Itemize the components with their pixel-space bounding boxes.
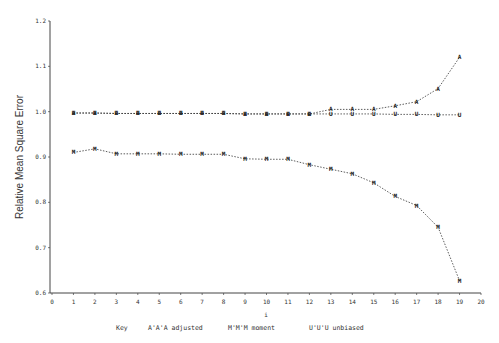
data-point-unbiased: U	[222, 109, 226, 116]
data-point-moment: M	[372, 179, 376, 186]
data-point-unbiased: U	[415, 110, 419, 117]
legend-item-adjusted: A'A'A adjusted	[148, 324, 203, 332]
x-tick-label: 14	[349, 298, 357, 305]
y-tick-label: 0.9	[35, 153, 46, 160]
data-point-moment: M	[436, 223, 440, 230]
data-point-unbiased: U	[350, 110, 354, 117]
data-point-unbiased: U	[115, 109, 119, 116]
legend-key-label: Key	[116, 324, 128, 332]
data-point-moment: M	[415, 202, 419, 209]
data-point-moment: M	[72, 148, 76, 155]
series-group: AAAAAAAAAAAAAAAAAAAMMMMMMMMMMMMMMMMMMMUU…	[72, 53, 462, 283]
x-tick-label: 13	[327, 298, 335, 305]
data-point-unbiased: U	[372, 110, 376, 117]
x-tick-label: 4	[136, 298, 140, 305]
data-point-unbiased: U	[393, 110, 397, 117]
data-point-unbiased: U	[200, 109, 204, 116]
data-point-moment: M	[350, 170, 354, 177]
y-tick-label: 1.2	[35, 17, 46, 24]
data-point-unbiased: U	[72, 109, 76, 116]
x-tick-label: 19	[456, 298, 464, 305]
data-point-adjusted: A	[415, 98, 419, 105]
y-tick-label: 1.1	[35, 62, 46, 69]
data-point-moment: M	[136, 150, 140, 157]
legend-item-moment: M'M'M moment	[228, 324, 275, 332]
x-tick-label: 2	[93, 298, 97, 305]
data-point-moment: M	[286, 155, 290, 162]
x-tick-label: 15	[370, 298, 378, 305]
y-tick-label: 0.7	[35, 244, 46, 251]
data-point-unbiased: U	[265, 110, 269, 117]
x-tick-label: 11	[284, 298, 292, 305]
data-point-unbiased: U	[286, 110, 290, 117]
data-point-moment: M	[157, 150, 161, 157]
x-tick-label: 3	[115, 298, 119, 305]
x-tick-label: 17	[413, 298, 421, 305]
data-point-moment: M	[222, 150, 226, 157]
x-tick-label: 16	[392, 298, 400, 305]
data-point-unbiased: U	[243, 110, 247, 117]
y-tick-label: 0.6	[35, 289, 46, 296]
data-point-moment: M	[393, 192, 397, 199]
data-point-unbiased: U	[136, 109, 140, 116]
series-line-moment	[73, 149, 459, 281]
data-point-unbiased: U	[93, 109, 97, 116]
x-tick-label: 10	[263, 298, 271, 305]
x-axis-label: i	[264, 311, 268, 318]
data-point-unbiased: U	[308, 110, 312, 117]
data-point-moment: M	[179, 150, 183, 157]
x-tick-label: 1	[72, 298, 76, 305]
data-point-moment: M	[458, 277, 462, 284]
data-point-moment: M	[243, 155, 247, 162]
x-tick-label: 7	[200, 298, 204, 305]
x-tick-label: 6	[179, 298, 183, 305]
legend: KeyA'A'A adjustedM'M'M momentU'U'U unbia…	[116, 324, 364, 332]
y-axis-label: Relative Mean Square Error	[14, 94, 25, 219]
data-point-moment: M	[93, 145, 97, 152]
x-tick-label: 5	[157, 298, 161, 305]
x-tick-label: 0	[50, 298, 54, 305]
data-point-moment: M	[265, 155, 269, 162]
data-point-unbiased: U	[436, 111, 440, 118]
data-point-unbiased: U	[157, 109, 161, 116]
data-point-adjusted: A	[458, 53, 462, 60]
data-point-adjusted: A	[436, 85, 440, 92]
legend-item-unbiased: U'U'U unbiased	[309, 324, 364, 332]
data-point-adjusted: A	[393, 102, 397, 109]
data-point-unbiased: U	[179, 109, 183, 116]
y-tick-label: 0.8	[35, 198, 46, 205]
series-line-adjusted	[73, 57, 459, 114]
chart: 012345678910111213141516171819200.60.70.…	[0, 0, 499, 343]
data-point-moment: M	[308, 161, 312, 168]
x-tick-label: 12	[306, 298, 314, 305]
x-tick-label: 9	[243, 298, 247, 305]
x-tick-label: 20	[477, 298, 485, 305]
axes: 012345678910111213141516171819200.60.70.…	[14, 17, 485, 318]
data-point-unbiased: U	[458, 111, 462, 118]
data-point-moment: M	[200, 150, 204, 157]
data-point-moment: M	[329, 165, 333, 172]
x-tick-label: 18	[434, 298, 442, 305]
y-tick-label: 1.0	[35, 108, 46, 115]
data-point-unbiased: U	[329, 110, 333, 117]
x-tick-label: 8	[222, 298, 226, 305]
data-point-moment: M	[115, 150, 119, 157]
